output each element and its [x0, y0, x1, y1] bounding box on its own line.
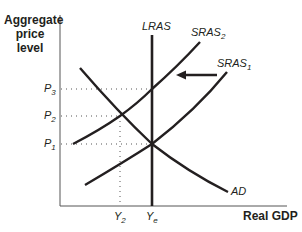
ye-label: Ye	[146, 211, 158, 225]
sras1-label: SRAS1	[217, 58, 251, 72]
y-axis-label-line-1: Aggregate	[4, 13, 56, 27]
p2-label-sub: 2	[51, 115, 55, 124]
sras1-label-sub: 1	[247, 63, 251, 72]
y-axis-label-line-3: level	[4, 41, 56, 55]
p1-label-sub: 1	[51, 143, 55, 152]
sras2-label-sub: 2	[221, 32, 225, 41]
x-axis-label: Real GDP	[243, 210, 298, 222]
sras2-label: SRAS2	[191, 27, 225, 41]
p2-label: P2	[44, 110, 56, 124]
y-axis-label-line-2: price	[4, 27, 56, 41]
lras-label: LRAS	[142, 21, 171, 32]
y-axis-label: Aggregate price level	[4, 13, 56, 55]
shift-arrow-icon	[176, 71, 186, 80]
y2-label-sub: 2	[121, 216, 125, 225]
y2-label: Y2	[114, 211, 126, 225]
p1-label: P1	[44, 138, 56, 152]
p3-label: P3	[44, 83, 56, 97]
ad-label: AD	[231, 186, 246, 197]
sras1-label-base: SRAS	[217, 57, 247, 69]
p3-label-sub: 3	[51, 88, 55, 97]
ye-label-sub: e	[153, 216, 157, 225]
sras2-label-base: SRAS	[191, 26, 221, 38]
